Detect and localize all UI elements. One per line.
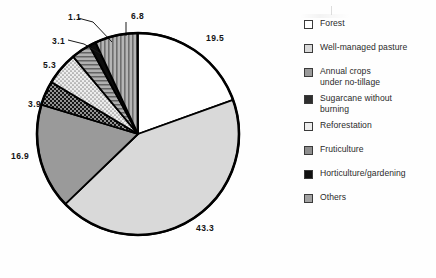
pie-value-label: 6.8 — [131, 12, 144, 21]
pie-value-label: 1.1 — [68, 13, 81, 22]
legend-item[interactable]: Horticulture/gardening — [304, 168, 436, 186]
legend-item-label: Forest — [320, 18, 345, 29]
legend-swatch-sugarcane — [304, 95, 313, 104]
pie-chart-area: 19.543.316.93.95.33.11.16.8 — [0, 0, 280, 278]
legend-item[interactable]: Others — [304, 192, 436, 210]
legend-item-label: Others — [320, 192, 346, 203]
legend-swatch-others — [304, 194, 313, 203]
chart-legend: ForestWell-managed pastureAnnual crops u… — [304, 18, 436, 216]
pie-value-label: 19.5 — [206, 34, 224, 43]
legend-swatch-horticulture — [304, 170, 313, 179]
legend-item[interactable]: Well-managed pasture — [304, 42, 436, 60]
legend-item-label: Sugarcane without burning — [320, 93, 392, 114]
legend-item[interactable]: Forest — [304, 18, 436, 36]
pie-value-label: 3.9 — [28, 100, 41, 109]
chart-page: 19.543.316.93.95.33.11.16.8 ForestWell-m… — [0, 0, 436, 278]
legend-swatch-well-managed-pasture — [304, 44, 313, 53]
legend-swatch-forest — [304, 20, 313, 29]
legend-item-label: Annual crops under no-tillage — [320, 66, 380, 87]
legend-item-label: Fruticulture — [320, 144, 364, 155]
pie-chart-svg — [0, 0, 280, 278]
pie-value-label: 43.3 — [196, 224, 214, 233]
legend-item-label: Reforestation — [320, 120, 372, 131]
legend-swatch-reforestation — [304, 122, 313, 131]
legend-swatch-annual-crops — [304, 68, 313, 77]
legend-item[interactable]: Reforestation — [304, 120, 436, 138]
pie-value-label: 3.1 — [52, 37, 65, 46]
legend-item[interactable]: Sugarcane without burning — [304, 93, 436, 114]
pie-value-label: 5.3 — [43, 61, 56, 70]
legend-item-label: Well-managed pasture — [320, 42, 407, 53]
legend-item-label: Horticulture/gardening — [320, 168, 406, 179]
legend-item[interactable]: Annual crops under no-tillage — [304, 66, 436, 87]
legend-item[interactable]: Fruticulture — [304, 144, 436, 162]
legend-swatch-fruticulture — [304, 146, 313, 155]
pie-value-label: 16.9 — [11, 152, 29, 161]
scan-artifact-mark — [331, 6, 332, 15]
